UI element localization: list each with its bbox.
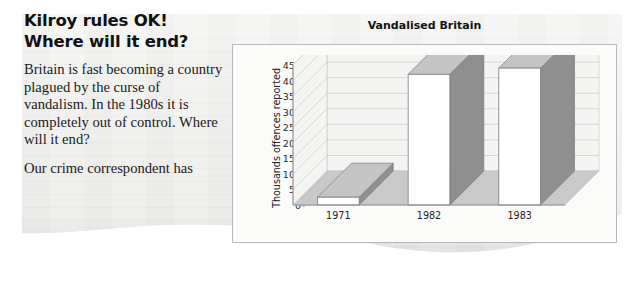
chart-panel: Thousands offences reported 050100150200…	[232, 44, 617, 243]
x-tick-1971: 1971	[326, 210, 350, 221]
article-column: Kilroy rules OK! Where will it end? Brit…	[24, 10, 226, 189]
x-tick-1983: 1983	[507, 210, 531, 221]
x-axis-tick-labels: 197119821983	[277, 55, 607, 235]
headline-line-2: Where will it end?	[24, 31, 226, 52]
article-paragraph-1: Britain is fast becoming a country plagu…	[24, 61, 226, 149]
headline: Kilroy rules OK! Where will it end?	[24, 10, 226, 52]
headline-line-1: Kilroy rules OK!	[24, 10, 226, 31]
article-paragraph-2: Our crime correspondent has	[24, 160, 226, 178]
x-tick-1982: 1982	[417, 210, 441, 221]
chart-title: Vandalised Britain	[232, 19, 617, 32]
plot-area: Thousands offences reported 050100150200…	[277, 55, 607, 235]
